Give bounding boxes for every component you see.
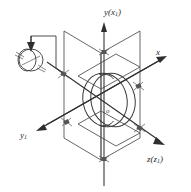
axis-vertical xyxy=(101,22,107,186)
axis-label-vertical-tail: ) xyxy=(118,7,121,17)
gyroscope-diagram: y(x1) x z(z1) y1 o xyxy=(0,0,191,192)
axis-label-z: z(z1) xyxy=(147,155,163,164)
motor-bracket xyxy=(31,36,62,72)
origin-label: o xyxy=(106,108,110,115)
axis-label-x: x xyxy=(156,48,160,57)
bearing-left xyxy=(61,118,72,126)
axis-y1 xyxy=(36,59,162,131)
axis-label-y1-sub: 1 xyxy=(24,134,27,140)
gimbal-plane-horizontal xyxy=(78,54,140,146)
bearing-right xyxy=(133,82,144,90)
drive-motor xyxy=(15,49,46,72)
axis-label-z-tail: ) xyxy=(160,154,163,164)
rotor-disc xyxy=(78,69,140,131)
axis-label-z-main: z(z xyxy=(147,154,157,164)
axis-label-vertical: y(x1) xyxy=(104,8,121,17)
axis-label-x-main: x xyxy=(156,47,160,57)
bearing-z-right xyxy=(134,124,145,132)
bearing-hatch-marks xyxy=(58,49,145,162)
axis-label-y1: y1 xyxy=(20,131,27,140)
bearing-motor-side xyxy=(58,70,69,78)
axis-label-vertical-main: y(x xyxy=(104,7,115,17)
